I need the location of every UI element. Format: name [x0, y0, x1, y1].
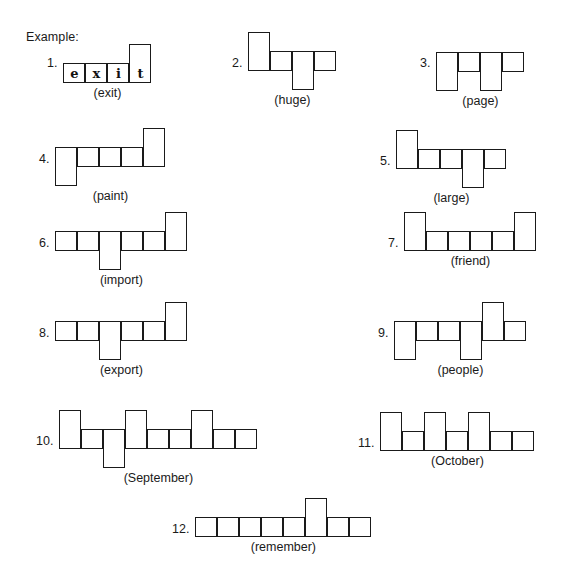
letter-box-normal[interactable]	[213, 429, 235, 449]
puzzle-number: 11.	[358, 437, 374, 450]
letter-box-tall[interactable]	[380, 412, 402, 451]
word-shape-worksheet: Example: 1.exit(exit)2.(huge)3.(page)4.(…	[0, 0, 562, 587]
letter-box-normal[interactable]	[440, 149, 462, 169]
letter-box-normal[interactable]: x	[85, 63, 107, 83]
letter-box-normal[interactable]	[418, 149, 440, 169]
letter-box-row	[394, 302, 526, 360]
letter-box-tall[interactable]: t	[129, 44, 151, 83]
letter-box-tall[interactable]	[165, 302, 187, 341]
letter-box-normal[interactable]	[217, 517, 239, 537]
letter-box-tall[interactable]	[305, 498, 327, 537]
letter-box-drop[interactable]	[394, 321, 416, 360]
letter-box-tall[interactable]	[125, 410, 147, 449]
letter-box-drop[interactable]	[480, 52, 502, 91]
letter-box-drop[interactable]	[103, 429, 125, 468]
letter-box-tall[interactable]	[248, 32, 270, 71]
letter-box-drop[interactable]	[55, 147, 77, 186]
letter-box-normal[interactable]: i	[107, 63, 129, 83]
letter-box-normal[interactable]	[77, 231, 99, 251]
letter-box-normal[interactable]	[416, 321, 438, 341]
letter-box-normal[interactable]	[77, 321, 99, 341]
letter-box-normal[interactable]	[77, 147, 99, 167]
letter-box-row	[248, 32, 336, 90]
shape-and-caption: exit(exit)	[63, 44, 151, 100]
puzzle-item-friend: 7.(friend)	[388, 212, 536, 268]
letter-box-drop[interactable]	[436, 52, 458, 91]
puzzle-item-people: 9.(people)	[378, 302, 526, 377]
letter-box-normal[interactable]	[283, 517, 305, 537]
letter-box-drop[interactable]	[462, 149, 484, 188]
letter-box-normal[interactable]	[314, 51, 336, 71]
word-caption: (export)	[100, 363, 143, 377]
shape-and-caption: (friend)	[404, 212, 536, 268]
letter-box-normal[interactable]	[438, 321, 460, 341]
letter-box-normal[interactable]	[143, 231, 165, 251]
word-caption: (large)	[433, 191, 469, 205]
letter-box-normal[interactable]	[270, 51, 292, 71]
letter-box-normal[interactable]	[169, 429, 191, 449]
letter-box-normal[interactable]	[121, 147, 143, 167]
letter-box-normal[interactable]	[55, 231, 77, 251]
letter-box-normal[interactable]	[195, 517, 217, 537]
puzzle-number: 9.	[378, 327, 388, 340]
puzzle-item-october: 11.(October)	[358, 412, 534, 468]
letter-box-normal[interactable]	[458, 52, 480, 72]
letter-box-normal[interactable]	[470, 231, 492, 251]
puzzle-number: 12.	[172, 523, 189, 536]
letter-box-row	[55, 302, 187, 360]
letter-box-row	[195, 498, 371, 537]
letter-box-drop[interactable]	[99, 321, 121, 360]
puzzle-number: 8.	[39, 327, 49, 340]
letter-box-tall[interactable]	[396, 130, 418, 169]
letter-box-normal[interactable]	[492, 231, 514, 251]
letter-box-row	[404, 212, 536, 251]
puzzle-number: 2.	[232, 57, 242, 70]
letter-box-normal[interactable]	[448, 231, 470, 251]
letter-box-tall[interactable]	[191, 410, 213, 449]
letter-box-normal[interactable]	[327, 517, 349, 537]
letter-box-tall[interactable]	[514, 212, 536, 251]
letter-box-tall[interactable]	[143, 128, 165, 167]
shape-and-caption: (large)	[396, 130, 506, 205]
letter-box-drop[interactable]	[460, 321, 482, 360]
shape-and-caption: (import)	[55, 212, 187, 287]
letter-box-normal[interactable]	[235, 429, 257, 449]
letter-box-drop[interactable]	[292, 51, 314, 90]
letter-box-normal[interactable]	[502, 52, 524, 72]
puzzle-number: 10.	[36, 435, 53, 448]
puzzle-item-export: 8.(export)	[39, 302, 187, 377]
letter-box-normal[interactable]	[426, 231, 448, 251]
letter-box-normal[interactable]	[504, 321, 526, 341]
shape-and-caption: (people)	[394, 302, 526, 377]
letter-box-normal[interactable]	[512, 431, 534, 451]
letter-box-normal[interactable]	[143, 321, 165, 341]
word-caption: (remember)	[251, 540, 316, 554]
letter-box-normal[interactable]	[121, 321, 143, 341]
letter-box-normal[interactable]: e	[63, 63, 85, 83]
letter-box-normal[interactable]	[484, 149, 506, 169]
letter-box-tall[interactable]	[468, 412, 490, 451]
letter-box-normal[interactable]	[261, 517, 283, 537]
letter-box-drop[interactable]	[99, 231, 121, 270]
letter-box-tall[interactable]	[424, 412, 446, 451]
word-caption: (huge)	[274, 93, 310, 107]
letter-box-normal[interactable]	[239, 517, 261, 537]
letter-box-normal[interactable]	[490, 431, 512, 451]
letter-box-row	[436, 52, 524, 91]
letter-box-normal[interactable]	[147, 429, 169, 449]
puzzle-number: 5.	[380, 155, 390, 168]
letter-box-normal[interactable]	[349, 517, 371, 537]
letter-box-normal[interactable]	[446, 431, 468, 451]
letter-box-row	[59, 410, 257, 468]
letter-box-normal[interactable]	[99, 147, 121, 167]
word-caption: (October)	[431, 454, 484, 468]
letter-box-normal[interactable]	[402, 431, 424, 451]
letter-box-tall[interactable]	[59, 410, 81, 449]
letter-box-normal[interactable]	[81, 429, 103, 449]
letter-box-normal[interactable]	[55, 321, 77, 341]
letter-box-tall[interactable]	[482, 302, 504, 341]
letter-box-row	[55, 128, 165, 186]
letter-box-tall[interactable]	[165, 212, 187, 251]
letter-box-tall[interactable]	[404, 212, 426, 251]
letter-box-normal[interactable]	[121, 231, 143, 251]
